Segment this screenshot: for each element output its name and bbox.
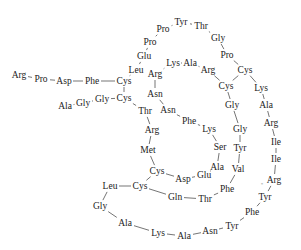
bond-line — [108, 212, 117, 218]
bond-line — [257, 203, 260, 206]
residue-label-arg: Arg — [148, 69, 163, 79]
bond-line — [167, 234, 175, 235]
bond-line — [214, 193, 218, 195]
residue-label-phe: Phe — [245, 207, 259, 217]
residue-label-cys: Cys — [117, 76, 132, 86]
residue-label-ser: Ser — [214, 142, 228, 152]
residue-label-asn: Asn — [160, 105, 176, 115]
bond-line — [221, 44, 224, 49]
bond-line — [234, 111, 238, 123]
residue-label-ala: Ala — [183, 58, 198, 68]
residue-label-tyr: Tyr — [225, 221, 239, 231]
bond-line — [149, 189, 166, 194]
bond-line — [147, 48, 148, 50]
bond-line — [149, 136, 151, 144]
annotation-mark: * — [261, 182, 264, 187]
bond-line — [233, 76, 239, 81]
residue-label-asn: Asn — [147, 89, 163, 99]
residue-label-leu: Leu — [103, 181, 118, 191]
residue-label-arg: Arg — [267, 175, 282, 185]
annotations: * — [261, 182, 264, 187]
residue-label-gly: Gly — [95, 94, 110, 104]
residue-label-ala: Ala — [118, 218, 133, 228]
bond-line — [250, 76, 256, 83]
residue-label-phe: Phe — [220, 184, 234, 194]
residue-label-thr: Thr — [198, 194, 213, 204]
residue-label-gly: Gly — [76, 98, 91, 108]
residue-label-cys: Cys — [238, 65, 253, 75]
residue-label-glu: Glu — [197, 170, 212, 180]
bond-line — [28, 77, 32, 78]
bond-line — [160, 100, 164, 104]
bond-line — [268, 111, 270, 117]
residue-label-thr: Thr — [138, 106, 153, 116]
bond-line — [214, 76, 219, 81]
bond-line — [103, 192, 107, 200]
residue-label-tyr: Tyr — [174, 17, 188, 27]
residue-label-cys: Cys — [133, 181, 148, 191]
bond-line — [134, 226, 149, 231]
residue-label-asp: Asp — [56, 76, 72, 86]
residue-label-cys: Cys — [150, 166, 165, 176]
residue-label-cys: Cys — [219, 81, 234, 91]
bond-line — [184, 198, 196, 199]
residue-label-glu: Glu — [137, 51, 152, 61]
residue-label-thr: Thr — [194, 21, 209, 31]
residue-label-pro: Pro — [156, 24, 169, 34]
residue-label-gly: Gly — [93, 201, 108, 211]
bond-line — [273, 129, 275, 136]
bond-line — [147, 117, 150, 124]
bond-line — [213, 135, 217, 141]
residue-label-asn: Asn — [202, 226, 218, 236]
bond-line — [156, 35, 158, 37]
residue-label-lys: Lys — [151, 228, 165, 238]
residue-label-arg: Arg — [12, 70, 27, 80]
residue-label-ile: Ile — [271, 137, 281, 147]
bond-line — [209, 32, 210, 33]
bond-line — [151, 156, 155, 165]
residue-label-phe: Phe — [85, 76, 99, 86]
bond-line — [133, 104, 136, 106]
residue-label-met: Met — [140, 145, 156, 155]
residue-label-asp: Asp — [175, 174, 191, 184]
bond-line — [240, 218, 244, 221]
bond-line — [193, 233, 201, 235]
residue-label-lys: Lys — [166, 58, 180, 68]
residue-label-phe: Phe — [182, 116, 196, 126]
residue-label-gly: Gly — [211, 33, 226, 43]
residue-label-gln: Gln — [168, 192, 183, 202]
bond-line — [275, 165, 276, 174]
residue-label-pro: Pro — [220, 50, 233, 60]
residue-label-ala: Ala — [259, 100, 274, 110]
bond-line — [139, 62, 140, 64]
peptide-diagram: ArgProAspPheCysLeuGluProProTyrThrGlyProC… — [0, 0, 301, 250]
residue-label-arg: Arg — [145, 125, 160, 135]
residue-label-arg: Arg — [201, 65, 216, 75]
residue-label-val: Val — [232, 164, 245, 174]
bond-line — [268, 186, 271, 191]
bond-line — [219, 228, 223, 229]
bond-line — [228, 92, 230, 99]
bond-line — [230, 175, 235, 183]
bond-line — [239, 154, 240, 163]
residue-label-gly: Gly — [233, 124, 248, 134]
residue-label-pro: Pro — [143, 37, 156, 47]
bond-line — [166, 174, 174, 176]
residue-label-tyr: Tyr — [258, 192, 272, 202]
residue-label-gly: Gly — [225, 100, 240, 110]
residue-label-leu: Leu — [129, 65, 144, 75]
residue-label-cys: Cys — [117, 93, 132, 103]
residue-label-pro: Pro — [34, 74, 47, 84]
residue-label-ala: Ala — [210, 162, 225, 172]
bond-line — [198, 125, 200, 126]
residue-label-lys: Lys — [254, 83, 268, 93]
bond-line — [177, 115, 180, 117]
residue-label-ala: Ala — [177, 231, 192, 241]
residue-label-tyr: Tyr — [233, 143, 247, 153]
bond-line — [146, 177, 150, 181]
bond-line — [234, 61, 238, 65]
residue-label-arg: Arg — [264, 118, 279, 128]
residue-label-lys: Lys — [202, 124, 216, 134]
amino-acid-residues: ArgProAspPheCysLeuGluProProTyrThrGlyProC… — [12, 17, 282, 241]
residue-label-ala: Ala — [58, 101, 73, 111]
